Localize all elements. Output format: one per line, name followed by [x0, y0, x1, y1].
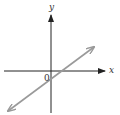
- y-axis-label: y: [49, 3, 54, 12]
- origin-label: 0: [44, 74, 50, 83]
- coordinate-plane: [0, 0, 120, 115]
- x-axis-label: x: [109, 66, 114, 75]
- coordinate-diagram: y x 0: [0, 0, 120, 115]
